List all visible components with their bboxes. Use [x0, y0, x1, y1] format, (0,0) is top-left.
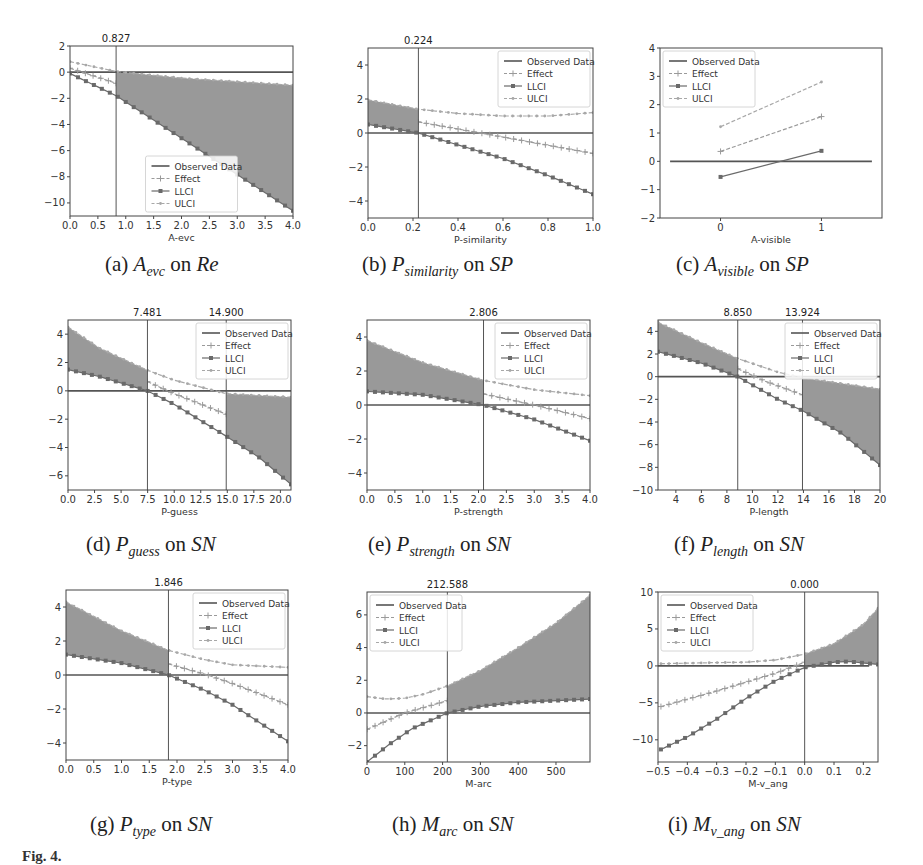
ulci-marker	[236, 80, 239, 83]
ulci-marker	[672, 328, 675, 331]
ulci-marker	[220, 79, 223, 82]
y-tick-label: 1	[649, 128, 655, 139]
llci-marker	[273, 469, 277, 473]
llci-marker	[100, 87, 104, 91]
effect-marker	[511, 136, 517, 142]
llci-marker	[796, 669, 800, 673]
effect-marker	[579, 414, 585, 420]
ulci-marker	[164, 75, 167, 78]
x-tick-label: 8	[724, 494, 730, 505]
llci-marker	[154, 393, 158, 397]
y-tick-label: −2	[638, 394, 653, 405]
legend-label: Effect	[524, 341, 550, 351]
llci-marker	[259, 188, 263, 192]
llci-marker	[715, 717, 719, 721]
y-tick-label: −10	[44, 197, 65, 208]
llci-marker	[712, 366, 716, 370]
caption-b: (b) Psimilarity on SP	[362, 252, 513, 280]
effect-marker	[762, 674, 768, 680]
effect-marker	[245, 686, 251, 692]
ulci-marker	[284, 83, 287, 86]
llci-marker	[755, 690, 759, 694]
ulci-marker	[92, 65, 95, 68]
ulci-marker	[772, 659, 775, 662]
ulci-marker	[85, 64, 88, 67]
llci-marker	[519, 163, 523, 167]
ulci-marker	[184, 653, 187, 656]
effect-marker	[90, 73, 96, 79]
y-tick-label: 4	[356, 332, 362, 343]
ulci-marker	[178, 380, 181, 383]
legend-marker	[511, 84, 515, 88]
y-tick-label: −2	[48, 414, 63, 425]
ulci-marker	[407, 106, 410, 109]
ulci-marker	[180, 77, 183, 80]
llci-marker	[405, 730, 409, 734]
effect-marker	[176, 393, 182, 399]
ulci-marker	[382, 697, 385, 700]
llci-marker	[503, 157, 507, 161]
x-tick-label: 3.0	[526, 494, 542, 505]
ulci-marker	[228, 80, 231, 83]
ulci-marker	[477, 670, 480, 673]
llci-marker	[516, 413, 520, 417]
llci-marker	[820, 662, 824, 666]
effect-marker	[571, 412, 577, 418]
llci-marker	[783, 401, 787, 405]
chart-h-svg: 212.58801002003004005006420−2M-arcObserv…	[305, 570, 615, 850]
legend-label: Effect	[225, 341, 251, 351]
llci-marker	[90, 373, 94, 377]
effect-marker	[277, 699, 283, 705]
legend: Observed DataEffectLLCIULCI	[146, 156, 243, 212]
y-tick-label: 2	[356, 366, 362, 377]
llci-marker	[580, 697, 584, 701]
significance-region	[226, 394, 291, 485]
figure-label: Fig. 4.	[22, 848, 62, 865]
threshold-label: 8.850	[723, 307, 752, 318]
legend: Observed DataEffectLLCIULCI	[498, 51, 595, 107]
llci-marker	[238, 708, 242, 712]
ulci-marker	[108, 69, 111, 72]
threshold-label: 0.224	[404, 35, 433, 46]
llci-marker	[215, 694, 219, 698]
effect-marker	[152, 382, 158, 388]
llci-marker	[780, 676, 784, 680]
llci-marker	[500, 408, 504, 412]
ulci-marker	[692, 662, 695, 665]
llci-marker	[187, 141, 191, 145]
llci-line	[66, 655, 288, 742]
ulci-marker	[172, 76, 175, 79]
llci-marker	[246, 713, 250, 717]
llci-marker	[193, 415, 197, 419]
ulci-marker	[263, 665, 266, 668]
ulci-marker	[525, 641, 528, 644]
llci-marker	[675, 740, 679, 744]
x-tick-label: 0.6	[495, 222, 511, 233]
ulci-marker	[479, 113, 482, 116]
effect-marker	[767, 380, 773, 386]
ulci-marker	[855, 384, 858, 387]
llci-marker	[572, 698, 576, 702]
llci-marker	[120, 661, 124, 665]
legend-marker	[512, 97, 515, 100]
llci-marker	[551, 176, 555, 180]
llci-marker	[445, 397, 449, 401]
effect-marker	[682, 697, 688, 703]
effect-marker	[558, 145, 564, 151]
x-tick-label: 0.8	[540, 222, 556, 233]
ulci-marker	[431, 109, 434, 112]
llci-marker	[836, 660, 840, 664]
llci-marker	[135, 665, 139, 669]
y-tick-label: −6	[48, 470, 63, 481]
ulci-marker	[80, 609, 83, 612]
llci-marker	[249, 450, 253, 454]
effect-marker	[775, 383, 781, 389]
y-tick-label: −2	[46, 704, 61, 715]
legend-marker	[384, 641, 387, 644]
llci-marker	[823, 421, 827, 425]
legend-label: Observed Data	[222, 599, 290, 609]
llci-marker	[112, 660, 116, 664]
significance-region	[658, 322, 738, 376]
ulci-marker	[429, 363, 432, 366]
llci-marker	[727, 372, 731, 376]
